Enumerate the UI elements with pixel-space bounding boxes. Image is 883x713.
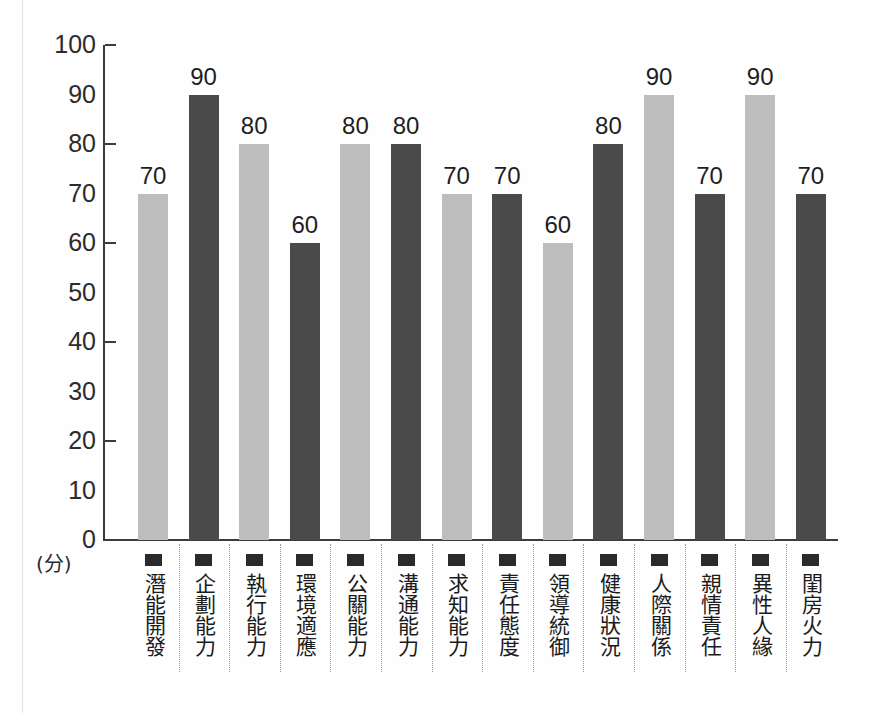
filled-square-marker-icon	[651, 554, 668, 566]
category-separator	[330, 544, 331, 672]
category-label-column[interactable]: 異性人緣	[735, 548, 785, 657]
y-axis-line	[103, 45, 105, 541]
category-label-text: 企劃能力	[192, 573, 215, 657]
bar[interactable]	[543, 243, 573, 540]
bar-column[interactable]: 80	[229, 45, 279, 540]
y-axis-label: 60	[36, 230, 96, 255]
category-separator	[482, 544, 483, 672]
category-label-column[interactable]: 責任態度	[482, 548, 532, 657]
filled-square-marker-icon	[347, 554, 364, 566]
bar-value-label: 90	[634, 65, 684, 89]
category-label-text: 領導統御	[546, 573, 569, 657]
bar-column[interactable]: 90	[735, 45, 785, 540]
category-separator	[533, 544, 534, 672]
bar[interactable]	[695, 194, 725, 541]
category-label-column[interactable]: 人際關係	[634, 548, 684, 657]
category-label-text: 健康狀況	[597, 573, 620, 657]
category-label-text: 親情責任	[698, 573, 721, 657]
bar[interactable]	[644, 95, 674, 541]
bar-column[interactable]: 90	[634, 45, 684, 540]
category-label-text: 異性人緣	[749, 573, 772, 657]
bar-column[interactable]: 70	[685, 45, 735, 540]
category-label-column[interactable]: 公關能力	[330, 548, 380, 657]
bar-column[interactable]: 70	[786, 45, 836, 540]
category-label-text: 執行能力	[243, 573, 266, 657]
bar[interactable]	[189, 95, 219, 541]
bar-value-label: 70	[432, 164, 482, 188]
y-axis-label: 10	[36, 478, 96, 503]
bar-value-label: 80	[229, 114, 279, 138]
bar-value-label: 90	[179, 65, 229, 89]
y-axis-label: 20	[36, 428, 96, 453]
filled-square-marker-icon	[701, 554, 718, 566]
category-label-text: 溝通能力	[395, 573, 418, 657]
bar-value-label: 80	[583, 114, 633, 138]
category-label-column[interactable]: 執行能力	[229, 548, 279, 657]
bar-value-label: 70	[482, 164, 532, 188]
bar-chart: 1009080706050403020100 (分) 7090806080807…	[0, 0, 883, 713]
category-label-text: 求知能力	[445, 573, 468, 657]
category-separator	[229, 544, 230, 672]
filled-square-marker-icon	[448, 554, 465, 566]
category-label-column[interactable]: 環境適應	[280, 548, 330, 657]
bar-value-label: 70	[786, 164, 836, 188]
page-canvas: 1009080706050403020100 (分) 7090806080807…	[0, 0, 883, 713]
filled-square-marker-icon	[499, 554, 516, 566]
bar-value-label: 90	[735, 65, 785, 89]
bar-column[interactable]: 60	[280, 45, 330, 540]
bar[interactable]	[796, 194, 826, 541]
bar[interactable]	[138, 194, 168, 541]
filled-square-marker-icon	[398, 554, 415, 566]
category-label-column[interactable]: 閨房火力	[786, 548, 836, 657]
category-label-column[interactable]: 健康狀況	[583, 548, 633, 657]
y-axis-label: 70	[36, 181, 96, 206]
bar[interactable]	[442, 194, 472, 541]
y-axis-label: 30	[36, 379, 96, 404]
y-axis-tick	[105, 44, 116, 46]
category-label-column[interactable]: 求知能力	[432, 548, 482, 657]
bar-value-label: 80	[381, 114, 431, 138]
bar[interactable]	[239, 144, 269, 540]
y-axis-label: 90	[36, 82, 96, 107]
bar[interactable]	[290, 243, 320, 540]
category-separator	[179, 544, 180, 672]
bar[interactable]	[492, 194, 522, 541]
filled-square-marker-icon	[145, 554, 162, 566]
bar-column[interactable]: 70	[128, 45, 178, 540]
bar[interactable]	[340, 144, 370, 540]
filled-square-marker-icon	[195, 554, 212, 566]
bar-column[interactable]: 60	[533, 45, 583, 540]
category-separator	[735, 544, 736, 672]
category-label-column[interactable]: 溝通能力	[381, 548, 431, 657]
bar-column[interactable]: 80	[583, 45, 633, 540]
bar-value-label: 60	[280, 213, 330, 237]
y-axis-tick	[105, 143, 116, 145]
bar-column[interactable]: 80	[381, 45, 431, 540]
y-axis-label: 40	[36, 329, 96, 354]
category-label-text: 閨房火力	[799, 573, 822, 657]
bar-column[interactable]: 70	[482, 45, 532, 540]
category-separator	[583, 544, 584, 672]
category-label-column[interactable]: 企劃能力	[179, 548, 229, 657]
filled-square-marker-icon	[600, 554, 617, 566]
bar[interactable]	[593, 144, 623, 540]
filled-square-marker-icon	[549, 554, 566, 566]
filled-square-marker-icon	[752, 554, 769, 566]
category-label-column[interactable]: 親情責任	[685, 548, 735, 657]
bar-column[interactable]: 80	[330, 45, 380, 540]
bar[interactable]	[391, 144, 421, 540]
y-axis-tick	[105, 242, 116, 244]
category-separator	[280, 544, 281, 672]
bar-value-label: 80	[330, 114, 380, 138]
bar-column[interactable]: 90	[179, 45, 229, 540]
y-axis-tick	[105, 341, 116, 343]
category-label-column[interactable]: 領導統御	[533, 548, 583, 657]
filled-square-marker-icon	[802, 554, 819, 566]
y-axis-unit-label: (分)	[36, 548, 72, 577]
bar[interactable]	[745, 95, 775, 541]
bar-column[interactable]: 70	[432, 45, 482, 540]
category-label-text: 公關能力	[344, 573, 367, 657]
category-label-column[interactable]: 潛能開發	[128, 548, 178, 657]
y-axis-label: 100	[36, 32, 96, 57]
category-separator	[786, 544, 787, 672]
